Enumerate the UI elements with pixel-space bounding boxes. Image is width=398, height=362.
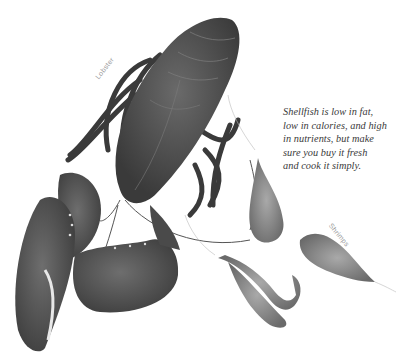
shrimp-bottom [185, 215, 301, 328]
caption-line: and cook it simply. [283, 159, 398, 173]
caption-line: in nutrients, but make [283, 132, 398, 146]
shrimp-top [228, 95, 283, 243]
caption-text: Shellfish is low in fat, low in calories… [283, 105, 398, 173]
caption-line: sure you buy it fresh [283, 146, 398, 160]
shellfish-photo [0, 0, 398, 362]
caption-line: low in calories, and high [283, 119, 398, 133]
photo-scene [0, 0, 398, 362]
caption-line: Shellfish is low in fat, [283, 105, 398, 119]
